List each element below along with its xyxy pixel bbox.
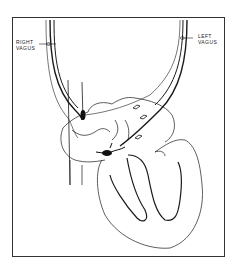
right-vagus-label-line2: VAGUS (16, 45, 35, 51)
cardiac-ganglion (102, 150, 112, 156)
left-vagus-label: LEFT VAGUS (198, 33, 217, 45)
heart-outline (61, 97, 203, 248)
left-vagus-nerve (85, 20, 187, 146)
right-vagus-nerve (46, 20, 82, 138)
left-vagus-label-line2: VAGUS (198, 39, 217, 45)
figure-frame (13, 18, 225, 257)
right-vagus-label: RIGHT VAGUS (16, 39, 35, 51)
label-leaders (39, 37, 193, 46)
